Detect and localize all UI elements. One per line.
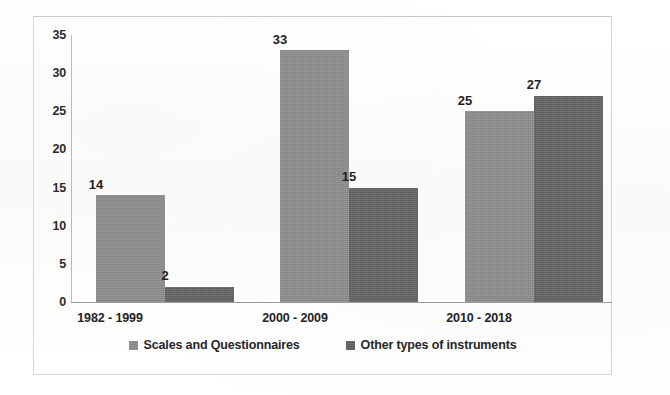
x-tick-label-2000-2009: 2000 - 2009 bbox=[215, 311, 375, 325]
y-tick-35: 35 bbox=[36, 28, 66, 42]
bar-texture bbox=[96, 195, 165, 302]
bar-texture bbox=[165, 287, 234, 302]
y-tick-15: 15 bbox=[36, 181, 66, 195]
chart-legend: Scales and Questionnaires Other types of… bbox=[33, 338, 612, 352]
legend-label: Other types of instruments bbox=[361, 338, 517, 352]
bar-texture bbox=[534, 96, 603, 302]
legend-label: Scales and Questionnaires bbox=[144, 338, 300, 352]
bar-2010-2018-scales[interactable] bbox=[465, 111, 534, 302]
x-tick-label-2010-2018: 2010 - 2018 bbox=[399, 311, 559, 325]
bar-label-1982-1999-other: 2 bbox=[145, 268, 185, 283]
bar-label-2010-2018-scales: 25 bbox=[445, 93, 485, 108]
bar-label-2010-2018-other: 27 bbox=[514, 77, 554, 92]
y-axis: 35 30 25 20 15 10 5 0 bbox=[32, 0, 66, 395]
bar-texture bbox=[349, 188, 418, 302]
y-tick-30: 30 bbox=[36, 66, 66, 80]
bar-label-2000-2009-other: 15 bbox=[329, 169, 369, 184]
legend-item-other-types-of-instruments[interactable]: Other types of instruments bbox=[346, 338, 517, 352]
bar-texture bbox=[465, 111, 534, 302]
y-tick-5: 5 bbox=[36, 257, 66, 271]
y-tick-20: 20 bbox=[36, 142, 66, 156]
y-tick-0: 0 bbox=[36, 295, 66, 309]
legend-swatch-icon bbox=[129, 341, 138, 350]
x-tick-label-1982-1999: 1982 - 1999 bbox=[30, 311, 190, 325]
y-tick-25: 25 bbox=[36, 104, 66, 118]
bar-1982-1999-scales[interactable] bbox=[96, 195, 165, 302]
legend-item-scales-and-questionnaires[interactable]: Scales and Questionnaires bbox=[129, 338, 300, 352]
chart-screenshot: 35 30 25 20 15 10 5 0 14 2 bbox=[0, 0, 670, 395]
bar-2000-2009-other[interactable] bbox=[349, 188, 418, 302]
legend-swatch-icon bbox=[346, 341, 355, 350]
x-axis-line bbox=[71, 302, 612, 303]
bar-label-1982-1999-scales: 14 bbox=[76, 177, 116, 192]
bar-1982-1999-other[interactable] bbox=[165, 287, 234, 302]
bar-label-2000-2009-scales: 33 bbox=[260, 32, 300, 47]
bar-2010-2018-other[interactable] bbox=[534, 96, 603, 302]
y-tick-10: 10 bbox=[36, 219, 66, 233]
